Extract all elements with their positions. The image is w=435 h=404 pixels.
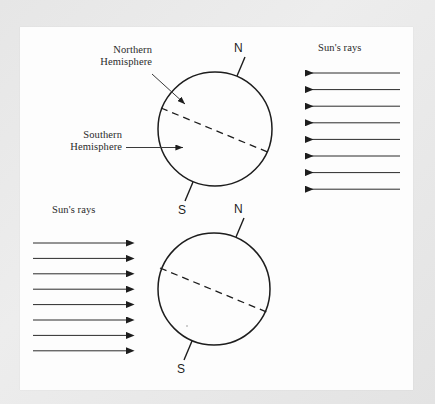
top-globe-north-label: N bbox=[234, 41, 243, 55]
left-ray-group bbox=[33, 243, 126, 351]
bottom-globe-outline bbox=[158, 233, 270, 345]
bottom-globe-equator-dashed bbox=[160, 268, 269, 313]
top-globe-south-axis-stub bbox=[185, 182, 193, 201]
suns-rays-right-label: Sun's rays bbox=[318, 42, 361, 54]
bottom-globe bbox=[158, 218, 270, 360]
earth-tilt-diagram bbox=[0, 0, 435, 404]
top-globe-north-axis-stub bbox=[237, 57, 245, 76]
northern-hemisphere-label: Northern Hemisphere bbox=[80, 44, 152, 69]
bottom-globe-north-label: N bbox=[234, 202, 243, 216]
top-globe-outline bbox=[158, 72, 272, 186]
top-globe-south-label: S bbox=[178, 203, 186, 217]
print-speck bbox=[186, 325, 188, 327]
suns-rays-left-label: Sun's rays bbox=[52, 204, 95, 216]
top-globe-equator-dashed bbox=[161, 108, 270, 153]
top-globe bbox=[158, 57, 272, 201]
bottom-globe-south-label: S bbox=[177, 362, 185, 376]
bottom-globe-south-axis-stub bbox=[184, 341, 192, 360]
northern-hemisphere-pointer bbox=[152, 74, 185, 104]
southern-hemisphere-label: Southern Hemisphere bbox=[46, 129, 122, 154]
right-ray-group bbox=[305, 73, 400, 189]
diagram-screenshot: Northern Hemisphere Southern Hemisphere … bbox=[0, 0, 435, 404]
bottom-globe-north-axis-stub bbox=[236, 218, 244, 237]
callout-lines bbox=[126, 74, 185, 148]
